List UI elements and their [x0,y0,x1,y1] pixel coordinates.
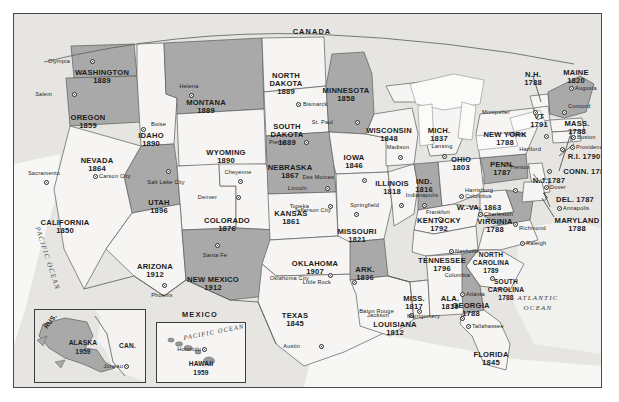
city-label-columbus: Columbus [465,194,492,200]
city-dot-little-rock [352,280,357,285]
state-year-pennsylvania: 1787 [493,169,511,177]
city-dot-lincoln [325,186,330,191]
state-label-connecticut: CONN. 1788 [563,168,602,176]
state-label-north-carolina: CAROLINA [473,260,509,267]
city-dot-helena [189,93,194,98]
city-label-lansing: Lansing [432,144,453,150]
city-dot-carson-city [93,174,98,179]
city-label-baton-rouge: Baton Rouge [359,309,394,315]
city-dot-columbus [459,194,464,199]
city-label-montpelier: Montpelier [482,110,510,116]
inset-label-hawaii-year: 1959 [193,370,208,377]
city-dot-atlanta [460,292,465,297]
inset-label-hawaii: HAWAII [189,361,214,368]
city-dot-annapolis [557,206,562,211]
state-year-north-dakota: 1889 [277,88,295,96]
city-dot-concord [562,110,567,115]
state-year-maryland: 1788 [568,225,586,233]
city-label-nashville: Nashville [455,249,480,255]
state-label-south-carolina: CAROLINA [488,287,524,294]
state-year-ohio: 1803 [452,164,470,172]
city-label-frankfort: Frankfort [426,210,450,216]
city-dot-albany [544,134,549,139]
city-dot-providence [570,145,575,150]
city-dot-springfield [399,203,404,208]
state-year-oregon: 1859 [79,122,97,130]
state-year-iowa: 1846 [345,162,363,170]
city-label-st-paul: St. Paul [312,120,333,126]
state-year-vermont: 1791 [530,121,548,129]
city-dot-cheyenne [238,179,243,184]
state-year-minnesota: 1858 [337,95,355,103]
city-dot-dover [544,185,549,190]
state-year-virginia: 1788 [486,226,504,234]
city-label-cheyenne: Cheyenne [224,170,251,176]
state-year-wyoming: 1890 [217,157,235,165]
city-dot-oklahoma-city [328,273,333,278]
city-label-austin: Austin [283,344,300,350]
state-year-nevada: 1864 [88,165,106,173]
city-label-albany: Albany [508,132,526,138]
state-year-kentucky: 1792 [430,225,448,233]
state-year-arizona: 1912 [146,271,164,279]
state-year-maine: 1820 [567,77,585,85]
state-year-illinois: 1818 [383,188,401,196]
state-year-kansas: 1861 [282,218,300,226]
city-dot-raleigh [520,241,525,246]
city-dot-augusta [569,86,574,91]
city-dot-nashville [449,249,454,254]
city-label-little-rock: Little Rock [303,280,331,286]
state-year-new-hampshire: 1788 [524,79,542,87]
us-statehood-map: .st{stroke:#5b5b5b;stroke-width:.7;} .sh… [0,0,619,402]
ocean-label-atlantic-line2: OCEAN [524,305,553,312]
state-year-oklahoma: 1907 [306,268,324,276]
city-label-madison: Madison [387,145,410,151]
state-year-wisconsin: 1848 [380,135,398,143]
city-dot-boise [141,127,146,132]
city-label-bismarck: Bismarck [303,102,328,108]
city-label-atlanta: Atlanta [466,292,485,298]
state-year-california: 1850 [56,227,74,235]
city-dot-salem [72,92,77,97]
state-label-rhode-island: R.I. 1790 [568,153,601,161]
city-label-carson-city: Carson City [99,174,130,180]
city-dot-frankfort [438,217,443,222]
state-year-utah: 1896 [150,207,168,215]
inset-label-canada: CAN. [119,343,136,350]
city-label-des-moines: Des Moines [302,175,334,181]
state-label-delaware: DEL. 1787 [556,196,594,204]
city-dot-st-paul [355,120,360,125]
city-label-boise: Boise [151,122,166,128]
city-dot-montgomery [460,316,465,321]
city-dot-des-moines [362,178,367,183]
city-label-sacramento: Sacramento [28,171,60,177]
city-dot-boston [571,135,576,140]
state-year-louisiana: 1812 [386,329,404,337]
city-label-santa-fe: Santa Fe [203,253,227,259]
city-label-raleigh: Raleigh [526,241,546,247]
state-year-texas: 1845 [286,320,304,328]
city-label-phoenix: Phoenix [151,293,173,299]
state-year-north-carolina: 1789 [483,268,498,275]
city-dot-phoenix [162,283,167,288]
city-label-jefferson-city: Jefferson City [294,208,331,214]
city-label-dover: Dover [550,185,566,191]
ocean-label-atlantic-line1: ATLANTIC [517,295,558,302]
city-label-richmond: Richmond [519,226,546,232]
state-year-colorado: 1876 [218,225,236,233]
city-dot-pierre [304,140,309,145]
city-label-trenton: Trenton [510,165,530,171]
city-dot-juneau [124,364,129,369]
inset-label-alaska-year: 1959 [75,349,90,356]
city-label-olympia: Olympia [48,59,70,65]
state-year-south-carolina: 1788 [498,295,513,302]
city-dot-montpelier [533,110,538,115]
hawaii-inset: PACIFIC OCEAN Honolulu HAWAII 1959 [156,322,246,383]
state-year-nebraska: 1867 [281,172,299,180]
city-label-tallahassee: Tallahassee [472,324,504,330]
state-year-florida: 1845 [482,359,500,367]
state-label-south-carolina: SOUTH [494,279,518,286]
state-year-idaho: 1890 [142,140,160,148]
city-label-hartford: Hartford [519,147,541,153]
inset-city-juneau: Juneau [103,364,123,370]
